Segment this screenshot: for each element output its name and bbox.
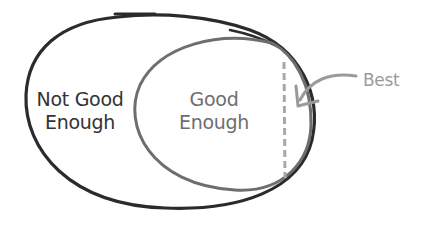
best-boundary-dashed-line bbox=[284, 62, 285, 178]
good-enough-label-line-2: Enough bbox=[172, 111, 256, 134]
good-enough-label-line-1: Good bbox=[172, 88, 256, 111]
not-good-enough-label-line-2: Enough bbox=[28, 111, 132, 134]
best-label: Best bbox=[363, 70, 399, 90]
good-enough-label: Good Enough bbox=[172, 88, 256, 134]
not-good-enough-label: Not Good Enough bbox=[28, 88, 132, 134]
not-good-enough-label-line-1: Not Good bbox=[28, 88, 132, 111]
